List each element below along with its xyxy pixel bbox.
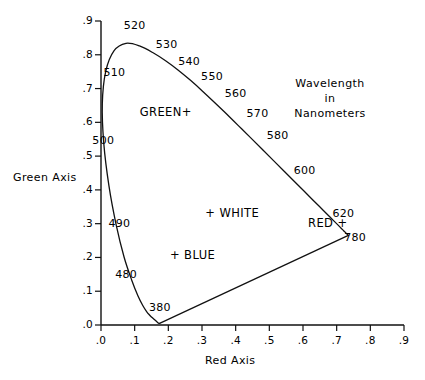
x-tick-label: .8 <box>360 335 380 346</box>
wavelength-label-380: 380 <box>149 302 171 313</box>
x-tick-label: .9 <box>394 335 414 346</box>
wavelength-label-520: 520 <box>124 20 146 31</box>
x-axis-title: Red Axis <box>205 355 255 366</box>
x-tick-label: .7 <box>327 335 347 346</box>
y-tick-label: .3 <box>77 218 93 229</box>
y-tick-label: .5 <box>77 150 93 161</box>
y-tick-label: .4 <box>77 184 93 195</box>
y-tick-label: .1 <box>77 285 93 296</box>
wavelength-label-780: 780 <box>344 232 366 243</box>
y-tick-label: .9 <box>77 15 93 26</box>
x-tick-label: .6 <box>293 335 313 346</box>
y-tick-label: .8 <box>77 49 93 60</box>
wavelength-label-490: 490 <box>109 218 131 229</box>
y-tick-label: .0 <box>77 319 93 330</box>
x-tick-label: .2 <box>158 335 178 346</box>
x-tick-label: .0 <box>91 335 111 346</box>
wavelength-label-560: 560 <box>225 88 247 99</box>
x-axis-ticks <box>101 325 404 331</box>
wavelength-label-570: 570 <box>247 108 269 119</box>
wavelength-note-line-3: Nanometers <box>285 108 375 119</box>
x-tick-label: .1 <box>125 335 145 346</box>
y-axis-ticks <box>95 21 101 325</box>
wavelength-note-line-1: Wavelength <box>285 78 375 89</box>
cie-chromaticity-diagram: .0.1.2.3.4.5.6.7.8.9 .0.1.2.3.4.5.6.7.8.… <box>0 0 425 380</box>
x-tick-label: .5 <box>259 335 279 346</box>
y-axis-title: Green Axis <box>13 172 77 183</box>
wavelength-label-550: 550 <box>201 71 223 82</box>
wavelength-label-600: 600 <box>294 165 316 176</box>
region-label-white: + WHITE <box>205 208 259 220</box>
wavelength-label-510: 510 <box>103 67 125 78</box>
wavelength-label-580: 580 <box>267 130 289 141</box>
y-tick-label: .7 <box>77 83 93 94</box>
region-label-blue: + BLUE <box>170 250 215 262</box>
region-label-red: RED + <box>308 218 347 230</box>
y-tick-label: .2 <box>77 251 93 262</box>
wavelength-label-500: 500 <box>92 135 114 146</box>
wavelength-label-480: 480 <box>115 269 137 280</box>
region-label-green: GREEN+ <box>140 107 192 119</box>
x-tick-label: .4 <box>226 335 246 346</box>
wavelength-label-530: 530 <box>156 39 178 50</box>
y-tick-label: .6 <box>77 116 93 127</box>
wavelength-label-540: 540 <box>178 56 200 67</box>
wavelength-note-line-2: in <box>285 93 375 104</box>
x-tick-label: .3 <box>192 335 212 346</box>
axes-group <box>95 21 404 331</box>
chart-canvas <box>0 0 425 380</box>
